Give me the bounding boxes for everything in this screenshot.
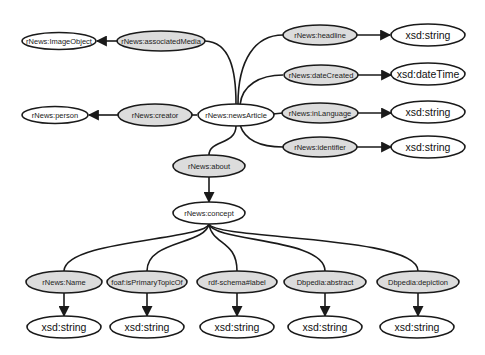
node-creator[interactable]: rNews:creator: [118, 104, 192, 126]
node-label: xsd:string: [406, 29, 451, 41]
node-abstract-type[interactable]: xsd:string: [288, 316, 362, 338]
node-primary-topic-type[interactable]: xsd:string: [110, 316, 184, 338]
node-label: rNews:inLanguage: [289, 109, 352, 118]
node-label: rNews:Name: [42, 278, 85, 287]
node-label: rNews:dateCreated: [289, 71, 354, 80]
node-label[interactable]: rdf-schema#label: [197, 271, 277, 293]
node-date-created-type[interactable]: xsd:dateTime: [391, 63, 465, 85]
rdf-graph-canvas: rNews:ImageObject rNews:associatedMedia …: [0, 0, 485, 355]
node-label: Dbpedia:abstract: [297, 278, 355, 287]
node-label: rNews:ImageObject: [26, 37, 93, 46]
node-label: rNews:person: [32, 111, 78, 120]
node-label: rNews:newsArticle: [205, 111, 267, 120]
edge-article-associated-media: [205, 41, 236, 104]
edge-concept-primary-topic: [147, 224, 209, 271]
edges-news-article: [192, 35, 283, 155]
node-headline[interactable]: rNews:headline: [283, 25, 357, 45]
node-news-article[interactable]: rNews:newsArticle: [198, 104, 274, 126]
node-person[interactable]: rNews:person: [22, 107, 88, 124]
node-label: xsd:string: [42, 321, 87, 333]
edge-article-about: [209, 126, 236, 155]
edge-article-identifier: [240, 125, 283, 147]
edge-article-date-created: [240, 75, 283, 105]
node-primary-topic[interactable]: foaf:isPrimaryTopicOf: [107, 271, 187, 293]
node-label: Dbpedia:depiction: [388, 278, 448, 287]
node-label-text: rdf-schema#label: [208, 278, 266, 287]
node-about[interactable]: rNews:about: [173, 155, 245, 177]
node-name-type[interactable]: xsd:string: [27, 316, 101, 338]
node-abstract[interactable]: Dbpedia:abstract: [284, 271, 366, 293]
node-depiction-type[interactable]: xsd:string: [380, 316, 454, 338]
edge-concept-name: [64, 224, 209, 271]
edge-article-headline: [238, 35, 283, 104]
node-label: rNews:identifier: [294, 143, 346, 152]
node-associated-media[interactable]: rNews:associatedMedia: [117, 31, 205, 51]
node-label: xsd:string: [395, 321, 440, 333]
node-image-object[interactable]: rNews:ImageObject: [22, 33, 96, 50]
node-label: xsd:string: [406, 141, 451, 153]
node-label: rNews:concept: [184, 209, 235, 218]
node-label: xsd:string: [215, 321, 260, 333]
edge-concept-depiction: [209, 224, 418, 271]
node-label: xsd:string: [125, 321, 170, 333]
node-identifier[interactable]: rNews:identifier: [283, 137, 357, 157]
node-identifier-type[interactable]: xsd:string: [391, 136, 465, 158]
node-label: xsd:string: [303, 321, 348, 333]
node-label: xsd:string: [406, 106, 451, 118]
node-in-language[interactable]: rNews:inLanguage: [282, 103, 358, 123]
node-label: rNews:creator: [132, 111, 179, 120]
node-label: rNews:associatedMedia: [121, 37, 201, 46]
node-label: xsd:dateTime: [397, 68, 460, 80]
node-label-type[interactable]: xsd:string: [200, 316, 274, 338]
node-name[interactable]: rNews:Name: [26, 271, 102, 293]
node-label: foaf:isPrimaryTopicOf: [111, 278, 183, 287]
edges-concept: [64, 224, 418, 316]
node-label: rNews:about: [188, 162, 231, 171]
node-date-created[interactable]: rNews:dateCreated: [284, 65, 358, 85]
node-depiction[interactable]: Dbpedia:depiction: [377, 271, 459, 293]
node-in-language-type[interactable]: xsd:string: [391, 101, 465, 123]
node-concept[interactable]: rNews:concept: [173, 202, 245, 224]
node-headline-type[interactable]: xsd:string: [391, 24, 465, 46]
node-label: rNews:headline: [294, 31, 346, 40]
